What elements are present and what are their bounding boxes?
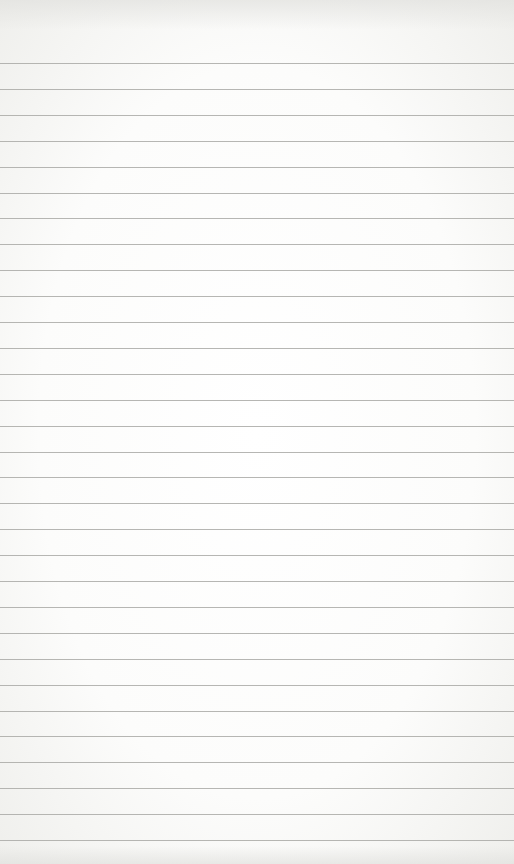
ruled-line	[0, 633, 514, 634]
ruled-line	[0, 503, 514, 504]
ruled-line	[0, 426, 514, 427]
ruled-line	[0, 840, 514, 841]
ruled-line	[0, 167, 514, 168]
ruled-line	[0, 193, 514, 194]
ruled-line	[0, 581, 514, 582]
ruled-line	[0, 529, 514, 530]
ruled-line	[0, 270, 514, 271]
ruled-line	[0, 452, 514, 453]
ruled-line	[0, 555, 514, 556]
ruled-line	[0, 374, 514, 375]
ruled-line	[0, 711, 514, 712]
ruled-line	[0, 400, 514, 401]
ruled-line	[0, 218, 514, 219]
ruled-line	[0, 659, 514, 660]
ruled-line	[0, 607, 514, 608]
ruled-line	[0, 736, 514, 737]
ruled-line	[0, 814, 514, 815]
ruled-line	[0, 141, 514, 142]
ruled-line	[0, 348, 514, 349]
ruled-line	[0, 63, 514, 64]
ruled-line	[0, 296, 514, 297]
ruled-line	[0, 322, 514, 323]
ruled-line	[0, 762, 514, 763]
lined-paper-sheet	[0, 0, 514, 864]
ruled-line	[0, 89, 514, 90]
ruled-line	[0, 477, 514, 478]
ruled-line	[0, 115, 514, 116]
ruled-line	[0, 788, 514, 789]
paper-bottom-shading	[0, 846, 514, 864]
paper-top-shading	[0, 0, 514, 30]
ruled-line	[0, 244, 514, 245]
ruled-line	[0, 685, 514, 686]
